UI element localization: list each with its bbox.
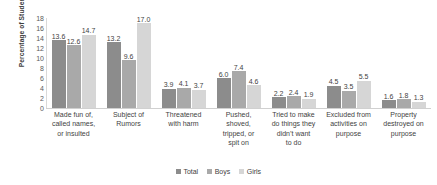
chart-legend: TotalBoysGirls [0,168,437,175]
y-axis-tick-8: 8 [40,65,44,72]
legend-item-girls[interactable]: Girls [239,168,261,175]
bar-data-label: 3.5 [344,83,354,90]
bar-data-label: 1.3 [414,94,424,101]
bar-group: 1.61.81.3 [376,18,431,108]
bar-fill [52,40,66,108]
bar-girls[interactable]: 1.3 [412,102,426,109]
bar-girls[interactable]: 1.9 [302,99,316,109]
bar-data-label: 17.0 [137,16,151,23]
bar-data-label: 7.4 [234,64,244,71]
category-label: Pushed,shoved,tripped, orspit on [211,110,266,148]
bar-fill [137,23,151,108]
y-axis-tick-18: 18 [36,15,44,22]
x-axis-category-labels: Made fun of,called names,or insultedSubj… [46,110,431,148]
category-label: Excluded fromactivities onpurpose [321,110,376,148]
legend-item-total[interactable]: Total [176,168,198,175]
bar-fill [382,100,396,108]
y-axis-tick-16: 16 [36,25,44,32]
legend-swatch-icon [176,169,181,174]
bar-data-label: 5.5 [359,73,369,80]
category-label-line: activities on [322,119,375,128]
category-label-line: Tried to make [267,110,320,119]
bar-fill [107,42,121,108]
category-label-line: called names, [47,119,100,128]
bar-fill [122,60,136,108]
bar-total[interactable]: 13.2 [107,42,121,108]
legend-label: Total [183,168,198,175]
bar-chart: Percentage of Students Bullied 181614121… [0,0,437,185]
bar-fill [217,78,231,108]
category-label: Propertydestroyed onpurpose [376,110,431,148]
bar-girls[interactable]: 5.5 [357,81,371,109]
category-label-line: destroyed on [377,119,430,128]
category-label-line: with harm [157,119,210,128]
category-label: Threatenedwith harm [156,110,211,148]
bar-fill [302,99,316,109]
bar-girls[interactable]: 17.0 [137,23,151,108]
bar-data-label: 9.6 [124,53,134,60]
legend-swatch-icon [207,169,212,174]
bar-data-label: 2.2 [274,90,284,97]
bar-fill [327,86,341,109]
category-label-line: purpose [322,129,375,138]
bar-total[interactable]: 2.2 [272,97,286,108]
bar-girls[interactable]: 3.7 [192,90,206,109]
category-label-line: do things they [267,119,320,128]
bar-total[interactable]: 1.6 [382,100,396,108]
bar-boys[interactable]: 2.4 [287,96,301,108]
y-axis-tick-6: 6 [40,75,44,82]
y-axis-tick-4: 4 [40,85,44,92]
bar-data-label: 12.6 [67,38,81,45]
bar-boys[interactable]: 4.1 [177,88,191,109]
category-label-line: purpose [377,129,430,138]
bar-data-label: 1.9 [304,91,314,98]
bar-total[interactable]: 3.9 [162,89,176,109]
bar-girls[interactable]: 14.7 [82,35,96,109]
bar-fill [82,35,96,109]
category-label-line: spit on [212,138,265,147]
y-axis-tick-0: 0 [40,105,44,112]
bar-fill [162,89,176,109]
bar-boys[interactable]: 9.6 [122,60,136,108]
bar-fill [357,81,371,109]
bar-group: 4.53.55.5 [321,18,376,108]
category-label-line: Made fun of, [47,110,100,119]
category-label: Made fun of,called names,or insulted [46,110,101,148]
bar-fill [192,90,206,109]
bar-data-label: 3.9 [164,81,174,88]
bar-total[interactable]: 4.5 [327,86,341,109]
bar-data-label: 4.5 [329,78,339,85]
bar-fill [272,97,286,108]
y-axis-tick-14: 14 [36,35,44,42]
bar-data-label: 1.6 [384,93,394,100]
bar-boys[interactable]: 1.8 [397,99,411,108]
bar-fill [397,99,411,108]
category-label-line: didn’t want [267,129,320,138]
bar-fill [177,88,191,109]
y-axis-tick-10: 10 [36,55,44,62]
bar-group: 6.07.44.6 [211,18,266,108]
category-label-line: Threatened [157,110,210,119]
bar-total[interactable]: 13.6 [52,40,66,108]
legend-item-boys[interactable]: Boys [207,168,230,175]
y-axis-tick-12: 12 [36,45,44,52]
bar-data-label: 4.6 [249,78,259,85]
bar-data-label: 4.1 [179,80,189,87]
legend-label: Girls [247,168,261,175]
bar-girls[interactable]: 4.6 [247,85,261,108]
bar-boys[interactable]: 7.4 [232,71,246,108]
bar-data-label: 13.2 [107,35,121,42]
plot-area: 13.612.614.713.29.617.03.94.13.76.07.44.… [46,18,431,109]
category-label-line: Excluded from [322,110,375,119]
bar-boys[interactable]: 12.6 [67,45,81,108]
category-label-line: shoved, [212,119,265,128]
bar-data-label: 6.0 [219,71,229,78]
category-label: Tried to makedo things theydidn’t wantto… [266,110,321,148]
bar-boys[interactable]: 3.5 [342,91,356,109]
category-label-line: or insulted [47,129,100,138]
legend-label: Boys [215,168,231,175]
bar-fill [412,102,426,109]
category-label-line: tripped, or [212,129,265,138]
bar-total[interactable]: 6.0 [217,78,231,108]
y-axis-tick-2: 2 [40,95,44,102]
